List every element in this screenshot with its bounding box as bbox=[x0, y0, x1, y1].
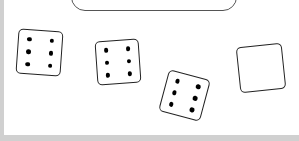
die-1[interactable] bbox=[15, 28, 63, 76]
die-pip bbox=[26, 49, 31, 54]
die-4[interactable] bbox=[236, 43, 287, 94]
die-pip bbox=[104, 48, 109, 53]
die-pip bbox=[127, 71, 132, 76]
die-pip bbox=[105, 60, 110, 65]
die-pip bbox=[195, 84, 201, 90]
die-pip bbox=[49, 38, 54, 43]
die-pip bbox=[105, 73, 110, 78]
die-pip bbox=[126, 47, 131, 52]
die-pip bbox=[174, 78, 180, 84]
dice-tray[interactable] bbox=[71, 0, 237, 11]
die-pip bbox=[47, 63, 52, 68]
die-pip bbox=[27, 37, 32, 42]
die-pip bbox=[127, 59, 132, 64]
die-pip bbox=[168, 102, 174, 108]
die-pip bbox=[192, 96, 198, 102]
die-pip bbox=[25, 62, 30, 67]
die-pip bbox=[189, 107, 195, 113]
die-pip bbox=[171, 90, 177, 96]
die-pip bbox=[48, 51, 53, 56]
die-2[interactable] bbox=[95, 39, 142, 86]
